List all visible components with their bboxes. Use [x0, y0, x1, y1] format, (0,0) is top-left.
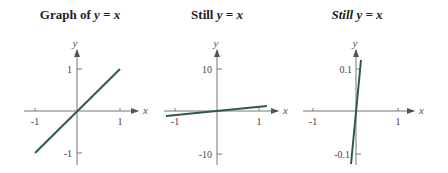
graph3-xtick-neg: -1 [309, 116, 317, 127]
graph3-ytick-pos: 0.1 [340, 64, 353, 75]
graph1: -1 1 1 -1 x y [24, 37, 148, 165]
graph2-ylabel: y [213, 37, 219, 49]
graph3-ytick-neg: -0.1 [334, 149, 350, 160]
graph2-ytick-neg: -10 [199, 149, 212, 160]
graph2: -1 1 10 -10 x y [164, 37, 288, 165]
graph1-xtick-pos: 1 [118, 116, 123, 127]
graph3-xlabel: x [418, 104, 424, 116]
graph1-ytick-pos: 1 [67, 64, 72, 75]
graphs-canvas: -1 1 1 -1 x y -1 1 10 -10 x y -1 1 0.1 -… [0, 0, 448, 173]
graph2-ytick-pos: 10 [202, 64, 212, 75]
graph1-xtick-neg: -1 [31, 116, 39, 127]
graph1-ylabel: y [72, 37, 78, 49]
graph1-ytick-neg: -1 [64, 148, 72, 159]
graph1-xlabel: x [142, 104, 148, 116]
graph2-xtick-pos: 1 [257, 116, 262, 127]
graph3-ylabel: y [352, 37, 358, 49]
graph3-xtick-pos: 1 [396, 116, 401, 127]
graph2-xtick-neg: -1 [171, 116, 179, 127]
graph3: -1 1 0.1 -0.1 x y [303, 37, 424, 165]
graph2-xlabel: x [282, 104, 288, 116]
